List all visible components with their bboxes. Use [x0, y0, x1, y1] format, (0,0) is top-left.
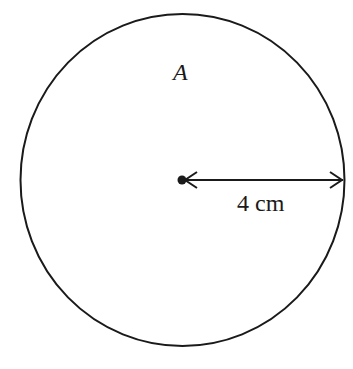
- radius-label: 4 cm: [237, 190, 285, 216]
- circle-diagram: A 4 cm: [0, 0, 353, 369]
- diagram-canvas: A 4 cm: [0, 0, 353, 369]
- shape-label: A: [171, 59, 188, 85]
